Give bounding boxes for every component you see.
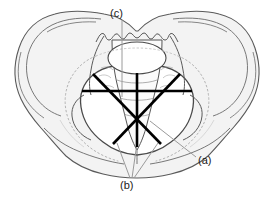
pelvis-figure: (c) (b) (a)	[0, 0, 273, 198]
sacral-promontory-oval	[108, 42, 166, 74]
label-a: (a)	[198, 155, 211, 166]
label-b: (b)	[120, 180, 133, 191]
pelvis-diagram-svg	[0, 0, 273, 198]
label-c: (c)	[110, 8, 123, 19]
